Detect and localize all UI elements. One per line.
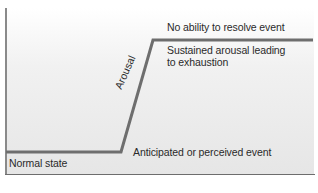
label-no-ability: No ability to resolve event	[167, 21, 285, 33]
label-sustained-line1: Sustained arousal leading	[167, 44, 285, 56]
label-normal-state: Normal state	[9, 157, 67, 169]
label-sustained-arousal: Sustained arousal leading to exhaustion	[167, 44, 285, 68]
label-event: Anticipated or perceived event	[133, 146, 271, 158]
label-sustained-line2: to exhaustion	[167, 56, 285, 68]
